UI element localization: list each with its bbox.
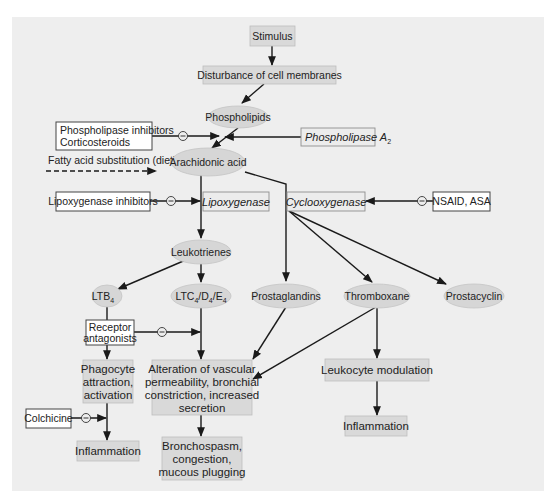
node-phospholipase-inhibitors-line1: Phospholipase inhibitors: [60, 124, 174, 136]
node-disturbance-label: Disturbance of cell membranes: [197, 69, 342, 81]
node-stimulus-label: Stimulus: [252, 30, 292, 42]
node-leukotrienes: Leukotrienes: [171, 240, 231, 264]
node-phospholipase-inhibitors-line2: Corticosteroids: [60, 136, 130, 148]
node-phospholipids-label: Phospholipids: [205, 111, 270, 123]
node-phagocyte-line2: attraction,: [83, 376, 134, 388]
minus-circle-icon: [179, 132, 188, 141]
diagram-panel: [12, 17, 544, 491]
node-leukocyte-modulation: Leukocyte modulation: [321, 359, 433, 381]
node-ltc4-d4-e4: LTC4/D4/E4: [171, 284, 231, 308]
arachidonic-acid-pathway-diagram: Stimulus Disturbance of cell membranes P…: [0, 0, 551, 504]
node-bronchospasm-line2: congestion,: [173, 453, 232, 465]
node-alteration-line1: Alteration of vascular: [148, 363, 256, 375]
node-leukocyte-modulation-label: Leukocyte modulation: [321, 364, 433, 376]
node-alteration-vascular: Alteration of vascular permeability, bro…: [145, 360, 259, 415]
node-phagocyte-attraction: Phagocyte attraction, activation: [81, 360, 135, 403]
node-lipoxygenase-inhibitors-label: Lipoxygenase inhibitors: [48, 195, 158, 207]
node-cyclooxygenase-label: Cyclooxygenase: [286, 196, 367, 208]
node-lipoxygenase-label: Lipoxygenase: [202, 196, 270, 208]
node-inflammation-left-label: Inflammation: [75, 445, 141, 457]
node-arachidonic-acid: Arachidonic acid: [169, 148, 246, 176]
node-bronchospasm-line3: mucous plugging: [159, 466, 246, 478]
node-lte4-part: /E: [213, 290, 223, 302]
node-prostacyclin: Prostacyclin: [444, 284, 504, 308]
node-lipoxygenase-inhibitors: Lipoxygenase inhibitors: [48, 192, 158, 211]
node-ltc4-part: LTC: [175, 290, 194, 302]
node-stimulus: Stimulus: [250, 26, 295, 46]
node-inflammation-right-label: Inflammation: [343, 420, 409, 432]
node-prostaglandins-label: Prostaglandins: [251, 290, 320, 302]
node-ltb4: LTB4: [92, 285, 122, 307]
fatty-acid-substitution-label: Fatty acid substitution (diet): [48, 154, 176, 166]
node-thromboxane: Thromboxane: [344, 284, 410, 308]
node-ltb4-label: LTB: [92, 290, 110, 302]
node-inflammation-left: Inflammation: [75, 441, 141, 461]
node-phagocyte-line3: activation: [84, 389, 133, 401]
node-phagocyte-line1: Phagocyte: [81, 363, 135, 375]
node-lipoxygenase: Lipoxygenase: [202, 192, 270, 211]
minus-circle-icon: [158, 328, 167, 337]
node-arachidonic-acid-label: Arachidonic acid: [169, 156, 246, 168]
node-prostacyclin-label: Prostacyclin: [446, 290, 503, 302]
svg-text:Phospholipase A2: Phospholipase A2: [305, 131, 391, 145]
minus-circle-icon: [418, 197, 427, 206]
node-prostaglandins: Prostaglandins: [251, 284, 320, 308]
minus-circle-icon: [82, 414, 91, 423]
node-cyclooxygenase: Cyclooxygenase: [286, 192, 367, 211]
node-phospholipase-a2-sub: 2: [387, 138, 391, 145]
node-phospholipase-a2-label: Phospholipase A: [305, 131, 387, 143]
node-nsaid-asa: NSAID, ASA: [432, 192, 490, 211]
node-ltb4-sub: 4: [110, 297, 114, 304]
node-bronchospasm: Bronchospasm, congestion, mucous pluggin…: [159, 437, 246, 480]
node-colchicine-label: Colchicine: [24, 412, 73, 424]
node-alteration-line4: secretion: [179, 402, 226, 414]
minus-circle-icon: [167, 197, 176, 206]
node-bronchospasm-line1: Bronchospasm,: [162, 440, 242, 452]
node-ltd4-part: /D: [198, 290, 209, 302]
node-nsaid-asa-label: NSAID, ASA: [432, 195, 490, 207]
node-lte4-sub: 4: [223, 297, 227, 304]
node-thromboxane-label: Thromboxane: [345, 290, 410, 302]
node-alteration-line2: permeability, bronchial: [145, 376, 259, 388]
svg-text:LTC4/D4/E4: LTC4/D4/E4: [175, 290, 226, 304]
node-disturbance: Disturbance of cell membranes: [197, 66, 342, 84]
node-inflammation-right: Inflammation: [343, 416, 409, 436]
node-receptor-antagonists: Receptor antagonists: [83, 320, 137, 345]
node-leukotrienes-label: Leukotrienes: [171, 246, 231, 258]
node-alteration-line3: constriction, increased: [145, 389, 259, 401]
node-colchicine: Colchicine: [24, 409, 73, 428]
node-receptor-antagonists-line2: antagonists: [83, 332, 137, 344]
